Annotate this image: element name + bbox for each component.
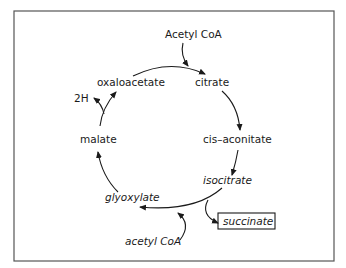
diagram-frame xyxy=(14,11,334,261)
arrow-acetyl-coa-in xyxy=(182,43,188,66)
arrow-2h-out xyxy=(94,98,104,114)
label-acetyl-coa-top: Acetyl CoA xyxy=(165,28,223,40)
label-2h: 2H xyxy=(74,92,89,104)
label-isocitrate: isocitrate xyxy=(203,174,252,186)
label-cis-aconitate: cis–aconitate xyxy=(203,133,272,145)
label-acetyl-coa-bottom: acetyl CoA xyxy=(125,235,181,247)
arrow-succinate-out xyxy=(206,200,218,223)
arrow-glyoxylate-to-malate xyxy=(98,152,118,192)
label-succinate: succinate xyxy=(223,215,273,227)
glyoxylate-cycle-diagram: Acetyl CoA citrate oxaloacetate 2H malat… xyxy=(0,0,346,268)
arrow-oxaloacetate-to-citrate xyxy=(133,66,205,76)
arrow-cis-aconitate-to-isocitrate xyxy=(232,150,238,175)
label-citrate: citrate xyxy=(195,76,229,88)
label-oxaloacetate: oxaloacetate xyxy=(97,76,165,88)
label-glyoxylate: glyoxylate xyxy=(105,191,160,203)
arrow-citrate-to-cis-aconitate xyxy=(222,91,240,130)
label-malate: malate xyxy=(80,133,117,145)
